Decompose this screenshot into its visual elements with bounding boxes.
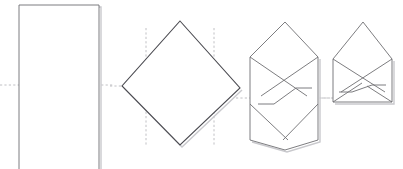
envelope-folding-diagram <box>0 0 403 169</box>
step-1-flat-sheet[interactable] <box>0 0 115 169</box>
step-2-hit-area[interactable] <box>118 15 246 155</box>
step-3-hit-area[interactable] <box>245 15 325 157</box>
diagram-canvas <box>0 0 403 169</box>
step-4-hit-area[interactable] <box>328 15 400 110</box>
step-2-diamond-orientation[interactable] <box>110 15 246 155</box>
step-3-sides-folded-in[interactable] <box>236 15 330 157</box>
step-4-finished-envelope[interactable] <box>322 15 400 110</box>
step-1-hit-area[interactable] <box>10 0 115 169</box>
